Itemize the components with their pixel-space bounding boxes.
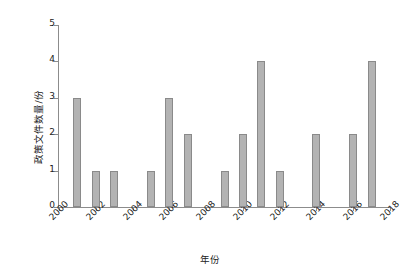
bar: [312, 134, 320, 207]
bar: [276, 171, 284, 207]
y-tick-label: 5: [49, 18, 55, 28]
x-axis-line: [58, 207, 390, 208]
bar: [147, 171, 155, 207]
y-tick-label: 3: [49, 91, 55, 101]
bar: [368, 61, 376, 207]
bar: [73, 98, 81, 207]
x-axis-title: 年份: [0, 252, 420, 266]
y-tick-label: 2: [49, 127, 55, 137]
bar: [110, 171, 118, 207]
x-tick-label: 2018: [378, 199, 401, 222]
bar: [221, 171, 229, 207]
y-tick-label: 1: [49, 164, 55, 174]
plot-area: 012345 200020022004200620082010201220142…: [59, 25, 390, 207]
y-axis-line: [58, 25, 59, 207]
bar: [257, 61, 265, 207]
x-tick-label: 2004: [121, 199, 144, 222]
bar: [184, 134, 192, 207]
bar: [239, 134, 247, 207]
bar: [349, 134, 357, 207]
y-axis-title: 政策文件数量/份: [31, 47, 45, 207]
y-tick-label: 4: [49, 54, 55, 64]
bar: [92, 171, 100, 207]
bar-chart: 政策文件数量/份 012345 200020022004200620082010…: [0, 0, 420, 277]
x-tick-label: 2008: [194, 199, 217, 222]
bar: [165, 98, 173, 207]
